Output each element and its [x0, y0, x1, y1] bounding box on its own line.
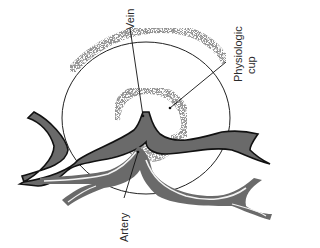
cup-label-line2: cup [245, 56, 257, 74]
cup-pointer-dot [169, 107, 172, 110]
cup-label-line1: Physiologic [232, 26, 244, 82]
disc-rim-stipple [70, 29, 226, 72]
vein-leader-line [130, 28, 143, 116]
vein-pointer-dot [142, 115, 145, 118]
artery-pointer-dot [137, 151, 140, 154]
artery-label: Artery [118, 213, 130, 242]
vein-label: Vein [124, 9, 136, 30]
cup-leader-line [170, 62, 226, 108]
